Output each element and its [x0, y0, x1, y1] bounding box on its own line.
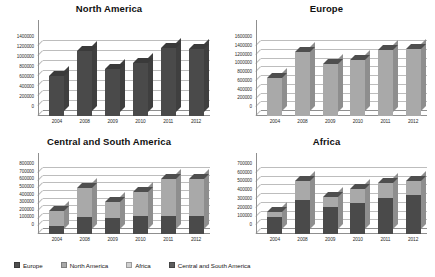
- y-axis-tick-label: 600000: [237, 169, 252, 174]
- legend-item: Europe: [14, 262, 43, 269]
- y-axis-tick-label: 500000: [19, 183, 34, 188]
- bar-top-face: [323, 192, 343, 197]
- x-axis-tick-label: 2011: [158, 119, 178, 131]
- bar-group: [406, 20, 421, 116]
- bar-group: [267, 20, 282, 116]
- bar-segment: [350, 60, 365, 116]
- bar-group: [267, 153, 282, 234]
- bar: [77, 188, 92, 234]
- plot-area-central-south-america: 0100000200000300000400000500000600000700…: [0, 147, 218, 253]
- y-axis-tick-label: 200000: [237, 204, 252, 209]
- bar-side-face: [204, 169, 209, 229]
- y-axis-tick-label: 0: [32, 104, 34, 109]
- legend-label: North America: [70, 262, 109, 269]
- y-axis-tick-label: 1600000: [235, 34, 252, 39]
- chart-panel-north-america: North America 02000004000006000008000001…: [0, 0, 218, 135]
- bar-top-face: [77, 183, 97, 188]
- bar: [406, 49, 421, 116]
- y-axis-tick-label: 600000: [237, 77, 252, 82]
- bar-side-face: [338, 54, 343, 112]
- bar-segment: [378, 198, 393, 234]
- legend-label: Central and South America: [178, 262, 251, 269]
- bar-group: [295, 153, 310, 234]
- bar-top-face: [49, 71, 69, 76]
- bar-side-face: [148, 53, 153, 112]
- chart-panel-africa: Africa 010000020000030000040000050000060…: [218, 135, 435, 253]
- bar-top-face: [189, 174, 209, 179]
- bar-group: [133, 153, 148, 234]
- y-axis-tick-label: 500000: [237, 178, 252, 183]
- x-axis-tick-label: 2009: [103, 119, 123, 131]
- chart-legend: EuropeNorth AmericaAfricaCentral and Sou…: [0, 253, 435, 277]
- bar-segment: [133, 63, 148, 117]
- bar: [323, 197, 338, 234]
- legend-label: Europe: [23, 262, 43, 269]
- y-axis-tick-label: 200000: [19, 94, 34, 99]
- bar: [295, 52, 310, 116]
- bar-side-face: [421, 39, 426, 111]
- legend-label: Africa: [135, 262, 151, 269]
- plot-area-europe: 0200000400000600000800000100000012000001…: [218, 14, 435, 135]
- plot-inner: [256, 153, 427, 234]
- bar: [105, 202, 120, 234]
- bar: [189, 179, 204, 234]
- bar-segment: [189, 216, 204, 234]
- y-axis-tick-label: 300000: [237, 195, 252, 200]
- y-axis-tick-label: 0: [32, 222, 34, 227]
- x-axis-tick-label: 2008: [75, 237, 95, 249]
- chart-title-north-america: North America: [0, 0, 218, 14]
- x-axis-tick-label: 2009: [103, 237, 123, 249]
- bar-side-face: [365, 179, 370, 229]
- y-axis-labels: 0100000200000300000400000500000600000700…: [218, 153, 254, 234]
- bar-top-face: [77, 46, 97, 51]
- x-axis-tick-label: 2012: [186, 237, 206, 249]
- bar-group: [323, 153, 338, 234]
- x-axis-tick-label: 2009: [320, 237, 340, 249]
- x-axis-labels: 200420082009201020112012: [38, 119, 210, 131]
- bar-top-face: [189, 44, 209, 49]
- bar-group: [161, 20, 176, 116]
- plot-inner: [38, 20, 210, 116]
- bar-top-face: [406, 176, 426, 181]
- y-axis-tick-label: 1200000: [235, 51, 252, 56]
- legend-swatch-icon: [61, 262, 67, 268]
- bar-side-face: [148, 182, 153, 229]
- bar-segment: [267, 212, 282, 217]
- bar-segment: [161, 216, 176, 234]
- bar-segment: [350, 189, 365, 203]
- plot-area-africa: 0100000200000300000400000500000600000700…: [218, 147, 435, 253]
- bar-segment: [378, 183, 393, 199]
- bar: [406, 181, 421, 234]
- y-axis-tick-label: 1200000: [17, 44, 34, 49]
- bar: [161, 48, 176, 117]
- plot-inner: [38, 153, 210, 234]
- x-axis-tick-label: 2012: [403, 119, 423, 131]
- bar: [77, 51, 92, 116]
- bar-top-face: [133, 58, 153, 63]
- y-axis-tick-label: 800000: [19, 64, 34, 69]
- bar-top-face: [295, 47, 315, 52]
- y-axis-tick-label: 100000: [237, 213, 252, 218]
- bar-top-face: [350, 184, 370, 189]
- bar-side-face: [338, 187, 343, 229]
- bar-side-face: [176, 38, 181, 112]
- y-axis-tick-label: 400000: [237, 86, 252, 91]
- bar-segment: [323, 197, 338, 207]
- x-axis-tick-label: 2010: [130, 119, 150, 131]
- x-axis-labels: 200420082009201020112012: [38, 237, 210, 249]
- bar: [378, 183, 393, 234]
- bar-side-face: [310, 42, 315, 111]
- bar-top-face: [406, 44, 426, 49]
- bar: [295, 181, 310, 234]
- bar-group: [105, 153, 120, 234]
- bar-group: [189, 20, 204, 116]
- bar-group: [77, 153, 92, 234]
- x-axis-tick-label: 2010: [348, 237, 368, 249]
- y-axis-tick-label: 400000: [19, 191, 34, 196]
- bar-segment: [406, 49, 421, 116]
- bar-group: [350, 20, 365, 116]
- bar-segment: [161, 179, 176, 216]
- bar-side-face: [282, 202, 287, 229]
- bar-segment: [295, 200, 310, 234]
- bar: [323, 64, 338, 117]
